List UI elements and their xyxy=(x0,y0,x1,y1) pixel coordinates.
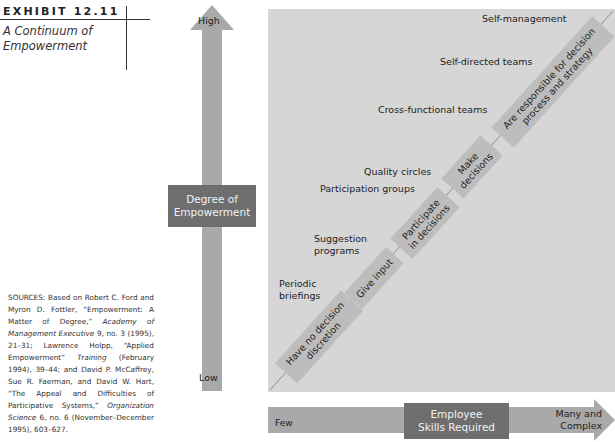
horizontal-axis-low: Few xyxy=(275,418,293,428)
vertical-axis-label-line1: Degree of xyxy=(186,193,238,206)
practice-label: Suggestionprograms xyxy=(314,233,367,257)
horizontal-axis-label-line1: Employee xyxy=(430,408,482,421)
exhibit-title-line1: A Continuum of xyxy=(3,24,123,39)
journal-title: Training xyxy=(77,353,106,362)
header-rule-vertical xyxy=(126,6,127,70)
vertical-axis-label-line2: Empowerment xyxy=(174,206,251,219)
horizontal-axis-high: Many and Complex xyxy=(552,408,602,432)
sources-note: SOURCES: Based on Robert C. Ford and Myr… xyxy=(8,292,154,436)
exhibit-title: A Continuum of Empowerment xyxy=(3,24,123,54)
exhibit-number: EXHIBIT 12.11 xyxy=(3,5,120,18)
vertical-axis-label: Degree of Empowerment xyxy=(168,185,256,227)
exhibit-title-line2: Empowerment xyxy=(3,39,123,54)
vertical-axis-low: Low xyxy=(199,372,218,383)
practice-label: Cross-functional teams xyxy=(378,104,487,116)
horizontal-axis-label-line2: Skills Required xyxy=(418,421,495,434)
vertical-axis-high: High xyxy=(198,15,220,26)
practice-label: Participation groups xyxy=(320,183,415,195)
horizontal-axis-label: Employee Skills Required xyxy=(404,403,509,439)
practice-label: Periodicbriefings xyxy=(279,278,320,302)
practice-label: Self-management xyxy=(482,13,566,25)
practice-label: Quality circles xyxy=(364,166,431,178)
header-rule-horizontal xyxy=(0,19,150,20)
practice-label: Self-directed teams xyxy=(440,56,532,68)
